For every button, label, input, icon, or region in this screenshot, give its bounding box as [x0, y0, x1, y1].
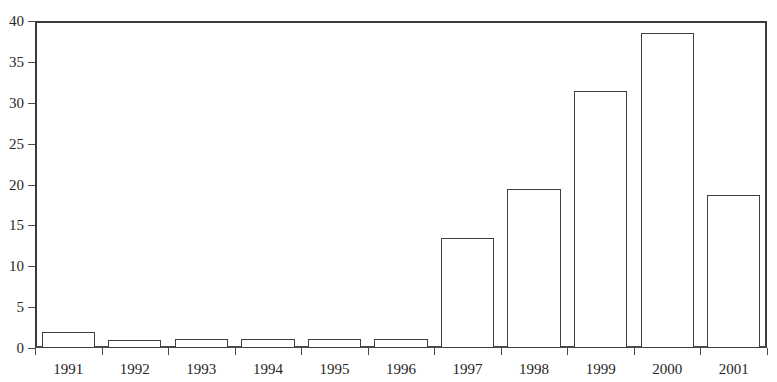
bar — [707, 195, 760, 348]
bar — [308, 339, 361, 348]
x-axis: 1991199219931994199519961997199819992000… — [0, 348, 777, 382]
bar — [507, 189, 560, 348]
x-axis-tick — [235, 348, 236, 355]
x-axis-tick — [501, 348, 502, 355]
bar — [108, 340, 161, 348]
bars-layer — [0, 0, 777, 382]
bar — [441, 238, 494, 348]
x-axis-tick — [434, 348, 435, 355]
x-axis-tick — [102, 348, 103, 355]
x-axis-tick — [700, 348, 701, 355]
bar-chart-screenshot: 0510152025303540 19911992199319941995199… — [0, 0, 777, 382]
x-axis-tick — [634, 348, 635, 355]
bar — [42, 332, 95, 348]
x-axis-tick-label: 1997 — [434, 362, 501, 377]
x-axis-tick — [301, 348, 302, 355]
bar — [241, 339, 294, 348]
x-axis-tick-label: 2000 — [634, 362, 701, 377]
x-axis-tick-label: 1998 — [501, 362, 568, 377]
x-axis-tick-label: 2001 — [700, 362, 767, 377]
x-axis-tick-label: 1999 — [567, 362, 634, 377]
bar — [641, 33, 694, 348]
x-axis-tick — [168, 348, 169, 355]
x-axis-tick-label: 1996 — [368, 362, 435, 377]
x-axis-tick — [35, 348, 36, 355]
x-axis-tick — [567, 348, 568, 355]
bar — [175, 339, 228, 348]
x-axis-tick-label: 1993 — [168, 362, 235, 377]
x-axis-tick — [767, 348, 768, 355]
x-axis-tick-label: 1992 — [102, 362, 169, 377]
x-axis-tick-label: 1995 — [301, 362, 368, 377]
x-axis-tick — [368, 348, 369, 355]
bar — [374, 339, 427, 348]
x-axis-tick-label: 1991 — [35, 362, 102, 377]
x-axis-tick-label: 1994 — [235, 362, 302, 377]
bar — [574, 91, 627, 349]
